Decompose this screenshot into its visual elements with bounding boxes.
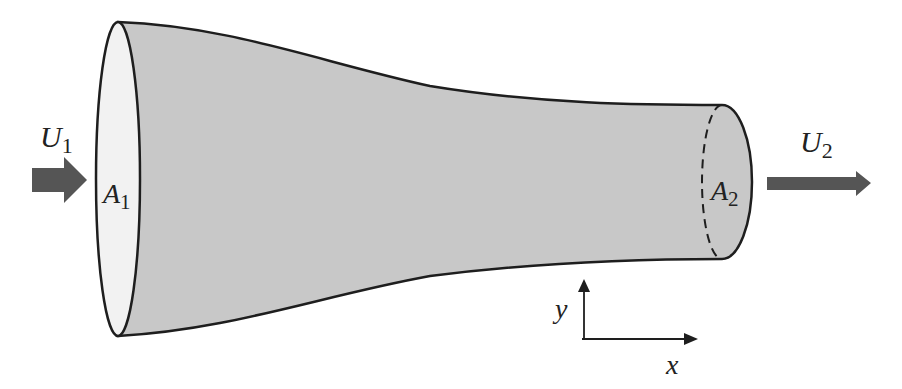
nozzle-diagram: U1 A1 A2 U2 y x <box>0 0 902 389</box>
y-axis-label: y <box>552 293 568 324</box>
x-axis-arrow-icon <box>684 333 698 345</box>
y-axis-arrow-icon <box>578 279 590 292</box>
outlet-flow-arrow-icon <box>767 171 871 196</box>
outlet-velocity-label: U2 <box>800 125 833 163</box>
x-axis-label: x <box>665 349 679 380</box>
inlet-velocity-label: U1 <box>40 120 73 158</box>
inlet-flow-arrow-icon <box>32 157 87 203</box>
coordinate-axes: y x <box>552 279 698 380</box>
duct-body <box>118 22 752 336</box>
